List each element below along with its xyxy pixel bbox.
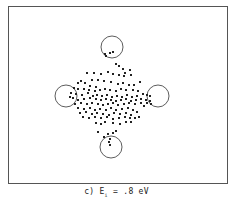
data-point xyxy=(149,100,151,102)
data-point xyxy=(70,92,72,94)
data-point xyxy=(101,95,103,97)
data-point xyxy=(121,108,123,110)
data-point xyxy=(109,52,111,54)
data-point xyxy=(80,102,82,104)
data-point xyxy=(80,80,82,82)
scatter-figure xyxy=(0,0,233,201)
figure-caption: c) Ei = .8 eV xyxy=(0,187,233,198)
data-point xyxy=(136,95,138,97)
data-point xyxy=(89,107,91,109)
data-point xyxy=(143,105,145,107)
data-point xyxy=(125,98,127,100)
data-point xyxy=(127,107,129,109)
data-point xyxy=(73,87,75,89)
data-point xyxy=(146,102,148,104)
data-point xyxy=(123,103,125,105)
data-point xyxy=(110,107,112,109)
data-point xyxy=(104,121,106,123)
data-point xyxy=(106,116,108,118)
caption-suffix: = .8 eV xyxy=(108,187,149,196)
data-point xyxy=(106,94,108,96)
data-point xyxy=(104,53,106,55)
data-point xyxy=(91,79,93,81)
data-point xyxy=(103,80,105,82)
data-point xyxy=(99,89,101,91)
data-point xyxy=(120,88,122,90)
data-point xyxy=(95,86,97,88)
data-point xyxy=(103,136,105,138)
data-point xyxy=(107,133,109,135)
data-point xyxy=(100,123,102,125)
data-point xyxy=(111,96,113,98)
data-point xyxy=(137,90,139,92)
data-point xyxy=(119,123,121,125)
data-point xyxy=(122,82,124,84)
data-point xyxy=(79,112,81,114)
data-point xyxy=(100,117,102,119)
data-point xyxy=(108,141,110,143)
data-point xyxy=(95,122,97,124)
data-point xyxy=(139,81,141,83)
data-point xyxy=(112,118,114,120)
data-point xyxy=(107,71,109,73)
data-point xyxy=(83,98,85,100)
data-point xyxy=(86,103,88,105)
data-point xyxy=(97,131,99,133)
data-point xyxy=(116,95,118,97)
data-point xyxy=(94,90,96,92)
data-point xyxy=(118,117,120,119)
data-point xyxy=(123,75,125,77)
data-point xyxy=(121,96,123,98)
data-point xyxy=(75,93,77,95)
data-point xyxy=(112,51,114,53)
data-point xyxy=(130,121,132,123)
data-point xyxy=(77,82,79,84)
data-point xyxy=(109,144,111,146)
data-point xyxy=(89,85,91,87)
data-point xyxy=(83,88,85,90)
data-point xyxy=(81,94,83,96)
data-point xyxy=(120,99,122,101)
data-point xyxy=(118,74,120,76)
data-point xyxy=(136,111,138,113)
data-point xyxy=(149,95,151,97)
data-point xyxy=(88,117,90,119)
data-point xyxy=(97,103,99,105)
data-point xyxy=(88,89,90,91)
data-point xyxy=(119,113,121,115)
data-point xyxy=(102,113,104,115)
data-point xyxy=(117,104,119,106)
data-point xyxy=(83,108,85,110)
data-point xyxy=(110,99,112,101)
data-point xyxy=(122,68,124,70)
data-point xyxy=(86,72,88,74)
data-point xyxy=(125,112,127,114)
data-point xyxy=(115,100,117,102)
data-point xyxy=(112,102,114,104)
data-point xyxy=(109,138,111,140)
data-point xyxy=(145,99,147,101)
data-point xyxy=(82,116,84,118)
data-point xyxy=(99,108,101,110)
data-point xyxy=(77,88,79,90)
data-point xyxy=(77,99,79,101)
data-point xyxy=(130,100,132,102)
data-point xyxy=(74,103,76,105)
data-point xyxy=(125,89,127,91)
data-point xyxy=(108,114,110,116)
data-point xyxy=(132,109,134,111)
data-point xyxy=(115,109,117,111)
data-point xyxy=(132,89,134,91)
data-point xyxy=(130,114,132,116)
data-point xyxy=(138,116,140,118)
data-point xyxy=(89,97,91,99)
data-point xyxy=(129,69,131,71)
scatter-points xyxy=(69,51,152,146)
data-point xyxy=(85,111,87,113)
data-point xyxy=(128,102,130,104)
data-point xyxy=(117,83,119,85)
data-point xyxy=(112,132,114,134)
data-point xyxy=(110,81,112,83)
data-point xyxy=(102,104,104,106)
data-point xyxy=(93,72,95,74)
